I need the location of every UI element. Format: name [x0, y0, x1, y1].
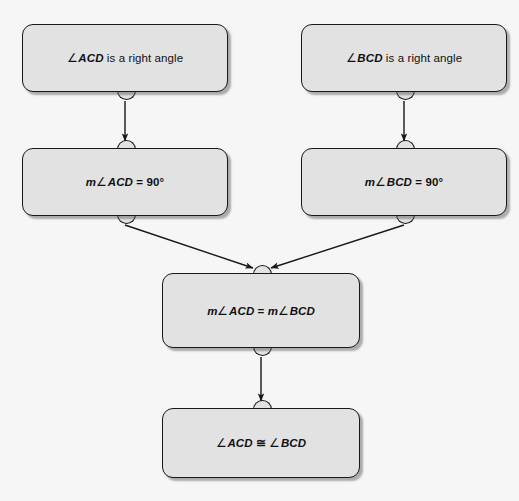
edge-n3-n5	[125, 225, 253, 268]
measure-prefix: m	[86, 176, 96, 188]
angle-symbol-2: ∠	[269, 437, 281, 449]
angle-symbol: ∠	[216, 437, 228, 449]
measure-prefix: m	[207, 305, 217, 317]
proof-node-mbcd-equals-90[interactable]: m∠BCD = 90°	[301, 148, 507, 216]
angle-name-2: BCD	[281, 437, 306, 449]
measure-prefix-2: m	[268, 305, 278, 317]
edge-n4-n5	[271, 225, 404, 268]
angle-name: BCD	[387, 176, 412, 188]
proof-node-label: ∠ACD is a right angle	[67, 51, 184, 65]
angle-name: ACD	[227, 437, 252, 449]
proof-node-label: m∠ACD = 90°	[86, 175, 164, 189]
measure-value: 90°	[425, 176, 443, 188]
statement-text: is a right angle	[104, 52, 184, 64]
angle-name-2: BCD	[290, 305, 315, 317]
proof-node-label: ∠ACD ≅ ∠BCD	[216, 436, 306, 450]
angle-symbol: ∠	[67, 52, 79, 64]
angle-symbol: ∠	[217, 305, 229, 317]
operator: =	[133, 176, 146, 188]
statement-text: is a right angle	[383, 52, 463, 64]
angle-name: ACD	[229, 305, 254, 317]
angle-name: ACD	[108, 176, 133, 188]
proof-node-macd-equals-mbcd[interactable]: m∠ACD = m∠BCD	[162, 273, 360, 348]
angle-symbol-2: ∠	[278, 305, 290, 317]
flow-proof-diagram: ∠ACD is a right angle ∠BCD is a right an…	[0, 0, 519, 501]
proof-node-label: m∠ACD = m∠BCD	[207, 304, 315, 318]
proof-node-label: ∠BCD is a right angle	[346, 51, 463, 65]
measure-prefix: m	[365, 176, 375, 188]
operator: ≅	[253, 437, 270, 449]
proof-node-bcd-right-angle[interactable]: ∠BCD is a right angle	[301, 24, 507, 92]
angle-symbol: ∠	[96, 176, 108, 188]
operator: =	[254, 305, 267, 317]
angle-name: ACD	[78, 52, 103, 64]
proof-node-acd-congruent-bcd[interactable]: ∠ACD ≅ ∠BCD	[162, 408, 360, 478]
angle-name: BCD	[357, 52, 382, 64]
angle-symbol: ∠	[375, 176, 387, 188]
operator: =	[412, 176, 425, 188]
proof-node-macd-equals-90[interactable]: m∠ACD = 90°	[22, 148, 228, 216]
measure-value: 90°	[146, 176, 164, 188]
angle-symbol: ∠	[346, 52, 358, 64]
proof-node-acd-right-angle[interactable]: ∠ACD is a right angle	[22, 24, 228, 92]
proof-node-label: m∠BCD = 90°	[365, 175, 443, 189]
